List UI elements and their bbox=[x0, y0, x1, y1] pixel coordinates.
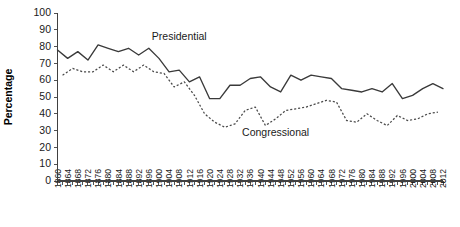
x-tick-label: 1952 bbox=[286, 169, 296, 188]
x-tick-label: 1924 bbox=[215, 169, 225, 188]
x-tick-label: 1872 bbox=[83, 169, 93, 188]
x-tick-label: 1876 bbox=[93, 169, 103, 188]
x-tick-label: 1932 bbox=[235, 169, 245, 188]
chart-canvas: Percentage 0102030405060708090100 186018… bbox=[0, 0, 460, 227]
x-tick-label: 1908 bbox=[174, 169, 184, 188]
x-tick-label: 1972 bbox=[337, 169, 347, 188]
x-tick-label: 2004 bbox=[418, 169, 428, 188]
x-tick-label: 1944 bbox=[266, 169, 276, 188]
x-tick-label: 1888 bbox=[124, 169, 134, 188]
y-tick-label: 30 bbox=[39, 124, 51, 136]
x-tick-label: 1920 bbox=[205, 169, 215, 188]
annotation-congressional: Congressional bbox=[242, 126, 309, 138]
x-tick-label: 1880 bbox=[103, 169, 113, 188]
y-axis-title: Percentage bbox=[2, 69, 14, 126]
y-tick-label: 10 bbox=[39, 157, 51, 169]
x-tick-label: 1960 bbox=[306, 169, 316, 188]
x-tick-label: 2000 bbox=[408, 169, 418, 188]
election-turnout-chart: Percentage 0102030405060708090100 186018… bbox=[0, 0, 460, 227]
series-line-congressional bbox=[63, 65, 438, 127]
x-tick-label: 1992 bbox=[387, 169, 397, 188]
x-tick-label: 1988 bbox=[377, 169, 387, 188]
x-tick-label: 1916 bbox=[195, 169, 205, 188]
x-tick-label: 1936 bbox=[245, 169, 255, 188]
annotation-presidential: Presidential bbox=[152, 30, 207, 42]
x-tick-label: 1912 bbox=[185, 169, 195, 188]
x-tick-label: 2012 bbox=[438, 169, 448, 188]
x-tick-label: 1964 bbox=[316, 169, 326, 188]
x-tick-label: 1948 bbox=[276, 169, 286, 188]
y-tick-label: 20 bbox=[39, 141, 51, 153]
x-tick-label: 1896 bbox=[144, 169, 154, 188]
x-tick-label: 1884 bbox=[114, 169, 124, 188]
x-tick-label: 1968 bbox=[327, 169, 337, 188]
y-tick-label: 60 bbox=[39, 73, 51, 85]
x-tick-label: 1928 bbox=[225, 169, 235, 188]
x-tick-label: 1956 bbox=[296, 169, 306, 188]
x-tick-label: 1980 bbox=[357, 169, 367, 188]
y-tick-label: 40 bbox=[39, 107, 51, 119]
y-tick-label: 70 bbox=[39, 57, 51, 69]
y-tick-label: 50 bbox=[39, 90, 51, 102]
x-tick-label: 1904 bbox=[164, 169, 174, 188]
x-tick-label: 1984 bbox=[367, 169, 377, 188]
x-axis-tick-group: 1860186418681872187618801884188818921896… bbox=[53, 169, 449, 188]
y-tick-label: 0 bbox=[45, 174, 51, 186]
x-tick-label: 1868 bbox=[73, 169, 83, 188]
x-tick-label: 1940 bbox=[256, 169, 266, 188]
series-group bbox=[58, 45, 444, 127]
x-tick-label: 2008 bbox=[428, 169, 438, 188]
x-tick-label: 1996 bbox=[398, 169, 408, 188]
x-tick-label: 1900 bbox=[154, 169, 164, 188]
x-tick-label: 1864 bbox=[63, 169, 73, 188]
y-tick-label: 80 bbox=[39, 40, 51, 52]
x-tick-label: 1892 bbox=[134, 169, 144, 188]
y-axis-tick-group: 0102030405060708090100 bbox=[33, 6, 57, 186]
series-line-presidential bbox=[58, 45, 444, 99]
y-axis-title-group: Percentage bbox=[2, 69, 14, 126]
y-tick-label: 90 bbox=[39, 23, 51, 35]
x-tick-label: 1976 bbox=[347, 169, 357, 188]
y-tick-label: 100 bbox=[33, 6, 51, 18]
